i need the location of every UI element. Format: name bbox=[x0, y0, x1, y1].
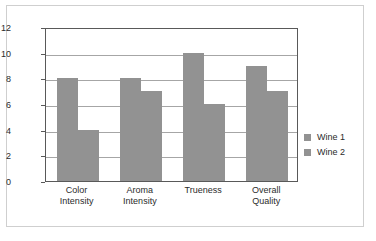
bar[interactable] bbox=[141, 91, 162, 181]
bar[interactable] bbox=[267, 91, 288, 181]
x-tick-label-line: Aroma bbox=[108, 185, 171, 196]
x-tick-label: AromaIntensity bbox=[108, 185, 171, 207]
x-tick-label-line: Intensity bbox=[45, 196, 108, 207]
y-axis: 024681012 bbox=[0, 0, 45, 241]
x-tick-label: Trueness bbox=[172, 185, 235, 196]
y-tick-mark bbox=[41, 182, 45, 183]
bar[interactable] bbox=[183, 53, 204, 181]
x-tick-label: OverallQuality bbox=[235, 185, 298, 207]
legend-swatch bbox=[304, 149, 311, 156]
y-tick-label: 12 bbox=[0, 24, 11, 33]
legend-swatch bbox=[304, 134, 311, 141]
legend-label: Wine 1 bbox=[317, 133, 345, 142]
x-tick-label-line: Trueness bbox=[172, 185, 235, 196]
y-tick-label: 8 bbox=[0, 75, 11, 84]
legend-label: Wine 2 bbox=[317, 148, 345, 157]
x-tick-label: ColorIntensity bbox=[45, 185, 108, 207]
bar[interactable] bbox=[78, 130, 99, 181]
x-tick-label-line: Color bbox=[45, 185, 108, 196]
bar[interactable] bbox=[204, 104, 225, 181]
bar-group bbox=[57, 29, 99, 181]
y-tick-label: 4 bbox=[0, 126, 11, 135]
bar[interactable] bbox=[246, 66, 267, 182]
chart-figure: 024681012 ColorIntensityAromaIntensityTr… bbox=[0, 0, 376, 241]
y-tick-label: 0 bbox=[0, 178, 11, 187]
x-tick-label-line: Intensity bbox=[108, 196, 171, 207]
bar[interactable] bbox=[57, 78, 78, 181]
bar-group bbox=[120, 29, 162, 181]
y-tick-label: 2 bbox=[0, 152, 11, 161]
plot-area bbox=[45, 28, 298, 182]
x-tick-label-line: Overall bbox=[235, 185, 298, 196]
y-tick-label: 10 bbox=[0, 49, 11, 58]
bar[interactable] bbox=[120, 78, 141, 181]
y-tick-label: 6 bbox=[0, 101, 11, 110]
legend-item[interactable]: Wine 2 bbox=[304, 146, 345, 159]
x-axis: ColorIntensityAromaIntensityTruenessOver… bbox=[45, 185, 298, 225]
legend-item[interactable]: Wine 1 bbox=[304, 131, 345, 144]
legend: Wine 1Wine 2 bbox=[304, 131, 345, 161]
x-tick-label-line: Quality bbox=[235, 196, 298, 207]
bar-group bbox=[246, 29, 288, 181]
bar-group bbox=[183, 29, 225, 181]
